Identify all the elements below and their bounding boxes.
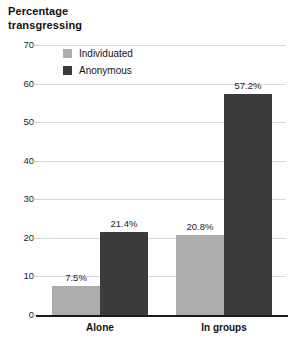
bar-value-label: 21.4% bbox=[92, 218, 156, 229]
y-axis-tick-label: 50 bbox=[4, 117, 34, 127]
bar-value-label: 7.5% bbox=[44, 272, 108, 283]
bar-individuated-alone bbox=[52, 286, 100, 315]
y-axis: 010203040506070 bbox=[0, 45, 34, 315]
bar-value-label: 20.8% bbox=[168, 221, 232, 232]
legend-entry-anonymous: Anonymous bbox=[63, 63, 133, 78]
legend-label-anonymous: Anonymous bbox=[79, 65, 132, 76]
legend-swatch-icon bbox=[63, 66, 72, 75]
x-axis-tick-label: Alone bbox=[32, 322, 168, 334]
y-axis-tick-label: 10 bbox=[4, 271, 34, 281]
y-axis-tick-label: 70 bbox=[4, 40, 34, 50]
y-axis-tick-label: 0 bbox=[4, 310, 34, 320]
legend-swatch-icon bbox=[63, 49, 72, 58]
bar-anonymous-in-groups bbox=[224, 94, 272, 315]
y-axis-tick-label: 60 bbox=[4, 79, 34, 89]
y-axis-tick-label: 20 bbox=[4, 233, 34, 243]
chart-title: Percentage transgressing bbox=[8, 4, 188, 32]
legend-entry-individuated: Individuated bbox=[63, 46, 133, 61]
legend-label-individuated: Individuated bbox=[79, 48, 133, 59]
plot-area: 7.5%21.4%20.8%57.2% bbox=[38, 45, 286, 315]
y-axis-tick-label: 40 bbox=[4, 156, 34, 166]
bar-anonymous-alone bbox=[100, 232, 148, 315]
x-axis-tick-label: In groups bbox=[156, 322, 292, 334]
legend: Individuated Anonymous bbox=[63, 46, 133, 80]
bar-individuated-in-groups bbox=[176, 235, 224, 315]
x-axis-line bbox=[36, 315, 288, 317]
y-axis-tick-label: 30 bbox=[4, 194, 34, 204]
bar-value-label: 57.2% bbox=[216, 80, 280, 91]
bar-chart: Percentage transgressing 010203040506070… bbox=[0, 0, 303, 344]
